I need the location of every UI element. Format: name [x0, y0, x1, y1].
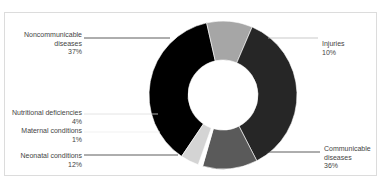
- label-text: Nutritional deficiencies: [12, 109, 82, 118]
- label-text: diseases: [24, 40, 82, 49]
- label-percent: 10%: [322, 49, 345, 58]
- label-percent: 12%: [21, 161, 83, 170]
- label-noncommunicable: Noncommunicable diseases 37%: [24, 31, 82, 57]
- label-percent: 4%: [12, 118, 82, 127]
- label-text: Injuries: [322, 40, 345, 49]
- label-nutritional: Nutritional deficiencies 4%: [12, 109, 82, 126]
- label-text: Communicable: [324, 145, 371, 154]
- label-percent: 37%: [24, 48, 82, 57]
- label-text: Neonatal conditions: [21, 152, 83, 161]
- label-percent: 36%: [324, 162, 371, 171]
- label-text: diseases: [324, 154, 371, 163]
- label-injuries: Injuries 10%: [322, 40, 345, 57]
- label-text: Noncommunicable: [24, 31, 82, 40]
- label-text: Maternal conditions: [21, 127, 82, 136]
- label-percent: 1%: [21, 136, 82, 145]
- label-communicable: Communicable diseases 36%: [324, 145, 371, 171]
- label-neonatal: Neonatal conditions 12%: [21, 152, 83, 169]
- label-maternal: Maternal conditions 1%: [21, 127, 82, 144]
